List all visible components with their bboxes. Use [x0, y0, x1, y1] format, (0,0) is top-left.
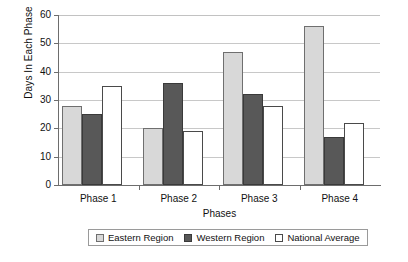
bar: [82, 114, 102, 185]
y-tick-label: 60: [40, 10, 51, 20]
plot-area: 0102030405060: [58, 15, 380, 185]
x-tick-mark: [219, 185, 220, 190]
bar: [243, 94, 263, 185]
bar: [62, 106, 82, 185]
legend-swatch-icon: [184, 234, 192, 242]
legend-swatch-icon: [275, 234, 283, 242]
y-tick-label: 0: [45, 180, 51, 190]
legend-swatch-icon: [96, 234, 104, 242]
bar: [223, 52, 243, 185]
x-tick-label: Phase 3: [241, 193, 278, 204]
bar: [163, 83, 183, 185]
bar: [183, 131, 203, 185]
bar: [304, 26, 324, 185]
x-tick-label: Phase 1: [80, 193, 117, 204]
legend-item: Western Region: [184, 233, 264, 243]
legend-item: Eastern Region: [96, 233, 173, 243]
y-tick-label: 10: [40, 152, 51, 162]
bar: [263, 106, 283, 185]
y-tick-label: 50: [40, 38, 51, 48]
bar-group: [139, 15, 220, 185]
y-tick-label: 30: [40, 95, 51, 105]
bar: [324, 137, 344, 185]
bar: [102, 86, 122, 185]
bar-group: [300, 15, 381, 185]
bar-group: [58, 15, 139, 185]
x-axis-title: Phases: [58, 208, 381, 219]
bar: [143, 128, 163, 185]
y-axis-title: Days In Each Phase: [23, 0, 34, 133]
y-tick-label: 40: [40, 67, 51, 77]
bar-group: [219, 15, 300, 185]
legend-label: Eastern Region: [108, 233, 173, 243]
x-tick-mark: [300, 185, 301, 190]
x-tick-mark: [139, 185, 140, 190]
y-tick-label: 20: [40, 123, 51, 133]
x-tick-label: Phase 4: [321, 193, 358, 204]
x-tick-label: Phase 2: [160, 193, 197, 204]
y-axis-line: [58, 15, 59, 186]
legend-label: National Average: [287, 233, 359, 243]
legend-item: National Average: [275, 233, 359, 243]
legend-label: Western Region: [196, 233, 264, 243]
bar: [344, 123, 364, 185]
chart-legend: Eastern RegionWestern RegionNational Ave…: [88, 229, 368, 246]
bar-chart-figure: Days In Each Phase 0102030405060 Phase 1…: [0, 0, 408, 262]
